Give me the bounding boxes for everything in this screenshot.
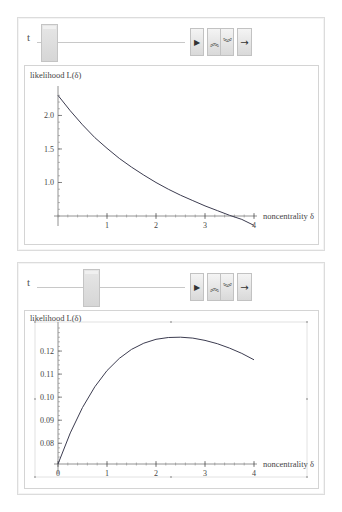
- double-chevron-down-icon: ︾: [223, 281, 232, 294]
- likelihood-plot-1[interactable]: 12341.01.52.0likelihood L(δ)noncentralit…: [25, 66, 319, 244]
- faster-button[interactable]: ︽: [207, 28, 221, 56]
- y-tick-label: 1.0: [44, 178, 54, 187]
- double-chevron-down-icon: ︾: [223, 36, 232, 49]
- x-tick-label: 4: [252, 221, 256, 230]
- play-button[interactable]: ▶: [190, 28, 204, 56]
- arrow-right-icon: →: [240, 37, 248, 48]
- slider-thumb[interactable]: [83, 269, 100, 307]
- slider-thumb[interactable]: [41, 24, 58, 62]
- likelihood-curve: [58, 337, 254, 464]
- slider-track[interactable]: [37, 42, 185, 43]
- plot-frame: 012340.080.090.100.110.12likelihood L(δ)…: [24, 310, 319, 489]
- slower-button[interactable]: ︾: [220, 273, 234, 301]
- plot-frame: 12341.01.52.0likelihood L(δ)noncentralit…: [24, 65, 319, 245]
- x-tick-label: 2: [154, 221, 158, 230]
- direction-button[interactable]: →: [237, 273, 252, 301]
- selection-handle: [170, 321, 172, 323]
- y-tick-label: 0.08: [40, 439, 54, 448]
- x-tick-label: 4: [252, 469, 256, 478]
- likelihood-plot-2[interactable]: 012340.080.090.100.110.12likelihood L(δ)…: [25, 311, 319, 488]
- slider-variable-label: t: [27, 276, 30, 288]
- x-tick-label: 1: [105, 221, 109, 230]
- play-button[interactable]: ▶: [190, 273, 204, 301]
- y-tick-label: 2.0: [44, 111, 54, 120]
- double-chevron-up-icon: ︽: [210, 36, 219, 49]
- slider-track[interactable]: [37, 287, 185, 288]
- x-tick-label: 3: [203, 469, 207, 478]
- y-axis-label: likelihood L(δ): [30, 70, 82, 80]
- selection-handle: [170, 476, 172, 478]
- faster-button[interactable]: ︽: [207, 273, 221, 301]
- x-tick-label: 0: [56, 469, 60, 478]
- manipulate-panel-2: t ▶ ︽ ︾ → 012340.080.090.100.110.12likel…: [17, 262, 325, 495]
- y-tick-label: 0.11: [40, 370, 54, 379]
- arrow-right-icon: →: [240, 282, 248, 293]
- y-axis-label: likelihood L(δ): [30, 313, 82, 323]
- x-tick-label: 1: [105, 469, 109, 478]
- play-icon: ▶: [194, 283, 200, 292]
- selection-frame: [35, 322, 307, 477]
- selection-handle: [306, 398, 308, 400]
- direction-button[interactable]: →: [237, 28, 252, 56]
- selection-handle: [306, 321, 308, 323]
- manipulate-panel-1: t ▶ ︽ ︾ → 12341.01.52.0likelihood L(δ)no…: [17, 17, 325, 251]
- double-chevron-up-icon: ︽: [210, 281, 219, 294]
- slider-variable-label: t: [27, 31, 30, 43]
- play-icon: ▶: [194, 38, 200, 47]
- selection-handle: [306, 476, 308, 478]
- y-tick-label: 1.5: [44, 145, 54, 154]
- y-tick-label: 0.10: [40, 393, 54, 402]
- x-axis-label: noncentrality δ: [263, 211, 314, 221]
- x-tick-label: 3: [203, 221, 207, 230]
- x-tick-label: 2: [154, 469, 158, 478]
- likelihood-curve: [58, 95, 254, 225]
- slower-button[interactable]: ︾: [220, 28, 234, 56]
- y-tick-label: 0.12: [40, 347, 54, 356]
- selection-handle: [34, 398, 36, 400]
- x-axis-label: noncentrality δ: [263, 459, 314, 469]
- y-tick-label: 0.09: [40, 416, 54, 425]
- selection-handle: [34, 476, 36, 478]
